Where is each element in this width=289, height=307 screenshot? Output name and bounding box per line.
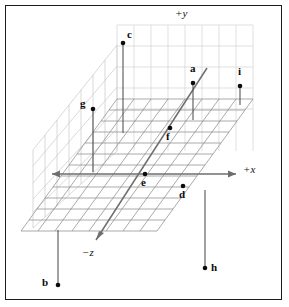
point-marker-g <box>91 107 96 112</box>
point-marker-i <box>238 84 243 89</box>
point-label-a: a <box>190 63 196 74</box>
point-marker-h <box>203 266 208 271</box>
point-label-g: g <box>80 98 86 109</box>
ground-plane-grid <box>21 99 253 231</box>
back-wall-grid <box>33 45 117 228</box>
axis-label-y: +y <box>175 8 187 19</box>
axis-label-x: +x <box>243 164 255 175</box>
point-label-e: e <box>141 177 146 188</box>
point-label-f: f <box>166 131 170 142</box>
point-label-i: i <box>238 66 241 77</box>
point-label-c: c <box>127 29 132 40</box>
point-label-d: d <box>179 189 185 200</box>
point-marker-a <box>191 81 196 86</box>
z-axis-arrowhead <box>96 231 104 240</box>
point-marker-c <box>121 41 126 46</box>
axis-label-z: −z <box>82 247 94 258</box>
point-marker-b <box>56 283 61 288</box>
point-label-b: b <box>42 277 48 288</box>
figure-root: +x +y −z a b c d e f g h i <box>0 0 289 307</box>
coordinate-system-diagram <box>0 0 289 307</box>
point-label-h: h <box>211 262 217 273</box>
